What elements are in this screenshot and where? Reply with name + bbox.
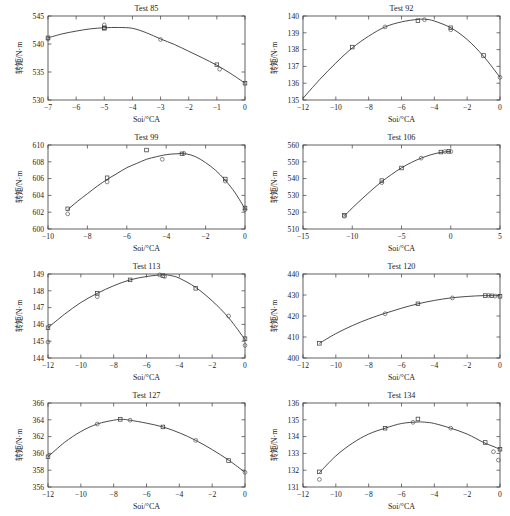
x-tick-label: −6 — [142, 361, 150, 370]
x-tick-label: 0 — [498, 490, 502, 499]
x-tick-label: −3 — [157, 103, 165, 112]
x-tick-label: −6 — [397, 490, 405, 499]
y-tick-label: 148 — [33, 287, 45, 296]
y-tick-label: 362 — [33, 432, 45, 441]
y-axis-label: 转矩/N·m — [14, 428, 24, 462]
x-tick-label: 5 — [498, 232, 502, 241]
x-tick-label: −2 — [208, 361, 216, 370]
x-tick-label: −10 — [330, 361, 342, 370]
y-tick-label: 136 — [288, 79, 300, 88]
x-tick-label: −4 — [128, 103, 136, 112]
y-tick-label: 147 — [33, 303, 45, 312]
x-tick-label: −10 — [75, 361, 87, 370]
x-tick-label: −7 — [44, 103, 52, 112]
y-tick-label: 360 — [33, 449, 45, 458]
chart-title: Test 106 — [388, 133, 416, 142]
x-tick-label: −12 — [297, 361, 309, 370]
y-tick-label: 608 — [33, 158, 45, 167]
x-tick-label: −10 — [75, 490, 87, 499]
x-axis-label: Soi/°CA — [388, 115, 415, 124]
y-tick-label: 530 — [33, 96, 45, 105]
y-tick-label: 140 — [288, 12, 300, 21]
x-tick-label: −2 — [463, 103, 471, 112]
x-axis-label: Soi/°CA — [388, 502, 415, 511]
plot-frame — [48, 16, 245, 100]
chart-title: Test 127 — [133, 391, 161, 400]
x-tick-label: −10 — [42, 232, 54, 241]
chart-panel-test-92: Test 92135136137138139140−12−10−8−6−4−20… — [255, 0, 510, 129]
plot-frame — [48, 274, 245, 358]
x-tick-label: −6 — [397, 103, 405, 112]
data-point — [218, 67, 222, 71]
x-tick-label: −8 — [110, 490, 118, 499]
x-tick-label: −2 — [185, 103, 193, 112]
y-tick-label: 440 — [288, 270, 300, 279]
x-tick-label: −4 — [175, 490, 183, 499]
x-tick-label: 0 — [243, 361, 247, 370]
y-tick-label: 139 — [288, 29, 300, 38]
plot-frame — [303, 16, 500, 100]
fit-curve — [68, 154, 245, 210]
x-tick-label: −2 — [202, 232, 210, 241]
x-tick-label: −15 — [297, 232, 309, 241]
data-point — [318, 478, 322, 482]
chart-panel-test-127: Test 127356358360362364366−12−10−8−6−4−2… — [0, 387, 255, 516]
y-tick-label: 420 — [288, 312, 300, 321]
plot-frame — [48, 403, 245, 487]
y-tick-label: 540 — [33, 40, 45, 49]
fit-curve — [48, 275, 245, 340]
x-tick-label: −8 — [83, 232, 91, 241]
x-tick-label: −2 — [463, 490, 471, 499]
x-tick-label: −10 — [330, 490, 342, 499]
x-tick-label: 0 — [498, 103, 502, 112]
x-tick-label: −8 — [365, 103, 373, 112]
x-axis-label: Soi/°CA — [388, 373, 415, 382]
x-tick-label: −4 — [162, 232, 170, 241]
data-point — [342, 214, 346, 218]
chart-title: Test 134 — [388, 391, 416, 400]
figure-grid: Test 85530535540545−7−6−5−4−3−2−10Soi/°C… — [0, 0, 510, 516]
x-tick-label: −2 — [463, 361, 471, 370]
x-tick-label: −6 — [72, 103, 80, 112]
chart-panel-test-85: Test 85530535540545−7−6−5−4−3−2−10Soi/°C… — [0, 0, 255, 129]
y-tick-label: 602 — [33, 208, 45, 217]
fit-curve — [303, 19, 500, 98]
x-tick-label: −4 — [430, 103, 438, 112]
y-axis-label: 转矩/N·m — [269, 299, 279, 333]
x-axis-label: Soi/°CA — [133, 244, 160, 253]
x-tick-label: −1 — [213, 103, 221, 112]
y-tick-label: 520 — [288, 208, 300, 217]
y-tick-label: 610 — [33, 141, 45, 150]
x-tick-label: −12 — [42, 490, 54, 499]
y-axis-label: 转矩/N·m — [14, 170, 24, 204]
y-tick-label: 136 — [288, 399, 300, 408]
x-axis-label: Soi/°CA — [133, 502, 160, 511]
y-tick-label: 545 — [33, 12, 45, 21]
y-tick-label: 540 — [288, 174, 300, 183]
y-tick-label: 550 — [288, 158, 300, 167]
fit-curve — [344, 151, 450, 216]
chart-title: Test 92 — [390, 4, 414, 13]
y-axis-label: 转矩/N·m — [14, 41, 24, 75]
y-tick-label: 430 — [288, 291, 300, 300]
data-point — [66, 212, 70, 216]
plot-frame — [303, 274, 500, 358]
y-axis-label: 转矩/N·m — [269, 170, 279, 204]
data-point — [105, 180, 109, 184]
x-tick-label: −4 — [430, 490, 438, 499]
y-tick-label: 132 — [288, 466, 300, 475]
fit-curve — [319, 422, 500, 473]
x-tick-label: −4 — [430, 361, 438, 370]
x-tick-label: −12 — [297, 490, 309, 499]
fit-curve — [48, 419, 245, 472]
plot-frame — [303, 145, 500, 229]
x-tick-label: −2 — [208, 490, 216, 499]
chart-panel-test-99: Test 99600602604606608610−10−8−6−4−20Soi… — [0, 129, 255, 258]
y-tick-label: 134 — [288, 432, 300, 441]
x-axis-label: Soi/°CA — [388, 244, 415, 253]
fit-curve — [48, 27, 245, 83]
x-tick-label: 0 — [243, 232, 247, 241]
chart-title: Test 85 — [135, 4, 159, 13]
data-point — [318, 342, 322, 346]
y-tick-label: 149 — [33, 270, 45, 279]
